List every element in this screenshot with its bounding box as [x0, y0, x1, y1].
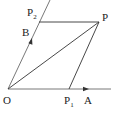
- label-p1: P1: [64, 94, 74, 109]
- label-a: A: [84, 94, 92, 106]
- label-p2: P2: [27, 6, 37, 21]
- arrow-a-icon: [83, 87, 89, 91]
- segment-p1-p: [69, 22, 99, 89]
- label-b: B: [22, 26, 29, 38]
- label-p: P: [102, 11, 108, 23]
- label-o: O: [3, 94, 11, 106]
- parallelogram-diagram: P2 P B O P1 A: [0, 0, 113, 115]
